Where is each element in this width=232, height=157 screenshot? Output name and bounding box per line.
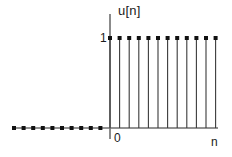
stem-plot-figure: u[n] 1 0 n (0, 0, 232, 157)
sample-marker (175, 36, 179, 40)
x-axis-label: n (211, 136, 218, 148)
sample-marker (108, 36, 112, 40)
sample-marker (79, 126, 83, 130)
sample-marker (185, 36, 189, 40)
y-axis-tick-label-one: 1 (100, 32, 107, 44)
sample-marker (89, 126, 93, 130)
sample-marker (118, 36, 122, 40)
sample-marker (98, 126, 102, 130)
sample-marker (22, 126, 26, 130)
sample-marker (41, 126, 45, 130)
sample-marker (146, 36, 150, 40)
sample-marker (31, 126, 35, 130)
sample-marker (166, 36, 170, 40)
sample-marker (60, 126, 64, 130)
sample-marker (214, 36, 218, 40)
sample-marker (50, 126, 54, 130)
x-axis-origin-label: 0 (114, 132, 121, 144)
sample-marker (12, 126, 16, 130)
sample-marker (137, 36, 141, 40)
sample-marker (127, 36, 131, 40)
sample-marker (194, 36, 198, 40)
sample-marker (70, 126, 74, 130)
sample-marker (204, 36, 208, 40)
sample-marker (156, 36, 160, 40)
y-axis-label: u[n] (118, 4, 140, 17)
